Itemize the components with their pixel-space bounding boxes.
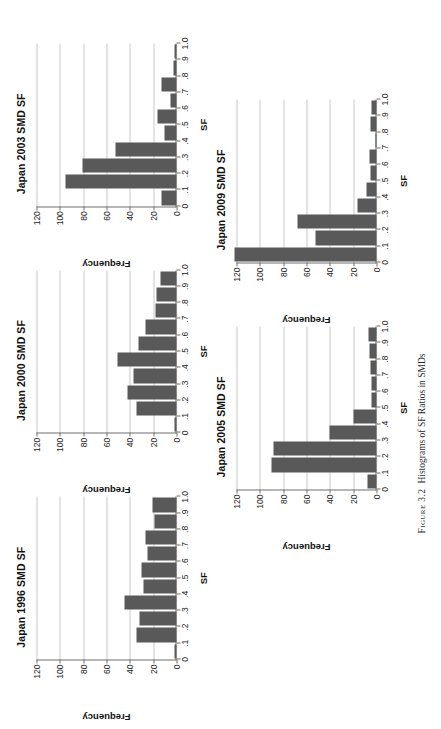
bar [271,457,376,471]
y-tick-label: 100 [54,437,64,451]
x-tick-mark [176,188,180,189]
x-tick-label: .6 [179,558,189,565]
histogram-bin [36,416,176,432]
y-tick-label: 120 [31,211,41,225]
x-tick-label: .5 [179,574,189,581]
x-tick-mark [176,156,180,157]
x-tick-mark [176,285,180,286]
histogram-bin [36,496,176,512]
x-tick-label: .1 [179,639,189,646]
bar [155,303,176,317]
x-tick-label: 0 [179,203,189,208]
x-tick-mark [176,42,180,43]
x-tick-mark [376,131,380,132]
x-tick-label: .3 [379,210,389,217]
histogram-bin [236,115,376,131]
x-tick-mark [376,212,380,213]
x-tick-mark [176,658,180,659]
x-tick-label: .7 [179,315,189,322]
x-tick-mark [176,123,180,124]
bar [173,60,177,74]
histogram-bin [36,529,176,545]
bar-series [236,326,376,489]
histogram-bin [36,594,176,610]
rotated-page-content: Japan 1996 SMD SFFrequency12010080604020… [0,0,441,729]
histogram-bin [36,141,176,157]
x-tick-label: .4 [379,420,389,427]
x-tick-label: .2 [179,170,189,177]
x-tick-label: .5 [379,404,389,411]
bar [369,149,376,163]
bar [370,165,376,179]
y-tick-label: 80 [78,437,88,446]
x-tick-mark [376,325,380,326]
x-tick-mark [376,439,380,440]
histogram-chart: Japan 1996 SMD SFFrequency12010080604020… [14,490,210,703]
x-tick-mark [176,415,180,416]
bar [353,409,376,423]
plot-area: 1201008060402000.1.2.3.4.5.6.7.8.91.0 [36,270,176,433]
histogram-chart: Japan 2009 SMD SFFrequency12010080604020… [214,93,410,306]
x-tick-label: .1 [379,469,389,476]
histogram-bin [36,92,176,108]
histogram-bin [36,367,176,383]
x-tick-label: .5 [179,347,189,354]
histogram-bin [36,626,176,642]
x-tick-mark [376,228,380,229]
y-tick-label: 60 [101,664,111,673]
x-tick-mark [176,383,180,384]
histogram-bin [36,59,176,75]
x-tick-mark [176,544,180,545]
histogram-bin [236,132,376,148]
x-tick-label: .8 [179,72,189,79]
x-tick-label: .4 [179,364,189,371]
x-tick-mark [176,205,180,206]
x-tick-mark [176,91,180,92]
histogram-bin [36,335,176,351]
x-tick-mark [176,642,180,643]
histogram-bin [36,578,176,594]
bar [174,644,176,658]
x-tick-mark [376,341,380,342]
bar [136,627,176,641]
figure-caption: Figure 3.2Histograms of SF Ratios in SMD… [416,23,426,533]
x-tick-mark [376,196,380,197]
histogram-bin [236,440,376,456]
x-tick-label: .1 [179,413,189,420]
x-tick-mark [376,423,380,424]
x-tick-label: 1.0 [179,264,189,276]
bar [370,360,376,374]
bar [161,190,176,204]
histogram-bin [36,561,176,577]
y-tick-label: 40 [324,494,334,503]
histogram-bin [236,148,376,164]
histogram-bin [236,213,376,229]
histogram-bin [36,400,176,416]
x-tick-mark [176,350,180,351]
plot-area: 1201008060402000.1.2.3.4.5.6.7.8.91.0 [36,496,176,659]
chart-row-top: Japan 1996 SMD SFFrequency12010080604020… [14,23,210,703]
y-tick-label: 0 [371,494,381,499]
x-tick-mark [176,269,180,270]
x-tick-mark [176,528,180,529]
bar [157,109,176,123]
x-tick-mark [176,399,180,400]
histogram-bin [36,545,176,561]
chart-title: Japan 2003 SMD SF [14,37,26,250]
histogram-bin [36,108,176,124]
y-tick-label: 20 [148,211,158,220]
y-tick-label: 80 [78,211,88,220]
bar [82,158,177,172]
x-tick-mark [376,163,380,164]
x-tick-mark [376,147,380,148]
x-tick-label: 1.0 [179,490,189,502]
plot-area: 1201008060402000.1.2.3.4.5.6.7.8.91.0 [36,43,176,206]
histogram-bin [236,408,376,424]
histogram-bin [236,473,376,489]
x-tick-mark [176,301,180,302]
histogram-chart: Japan 2005 SMD SFFrequency12010080604020… [214,320,410,533]
histogram-bin [236,164,376,180]
x-tick-label: .6 [179,331,189,338]
x-tick-label: .7 [179,88,189,95]
bar [329,425,376,439]
